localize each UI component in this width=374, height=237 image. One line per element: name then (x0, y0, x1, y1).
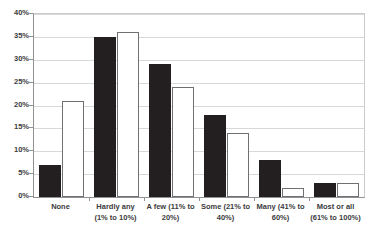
x-axis-label-line: 60%) (253, 213, 308, 224)
chart-title (33, 0, 363, 4)
bar[interactable] (227, 133, 249, 197)
x-axis-tick-mark (254, 197, 255, 201)
bar[interactable] (117, 32, 139, 197)
bars-layer (34, 14, 364, 197)
bar[interactable] (314, 183, 336, 197)
x-axis-tick-label: A few (11% to20%) (143, 202, 198, 223)
x-axis-tick-mark (144, 197, 145, 201)
bar[interactable] (149, 64, 171, 197)
bar[interactable] (337, 183, 359, 197)
bar[interactable] (259, 160, 281, 197)
x-axis-tick-label: Hardly any(1% to 10%) (88, 202, 143, 223)
y-axis-tick-label: 20% (0, 101, 29, 109)
y-axis-tick-label: 0% (0, 192, 29, 200)
bar-group (34, 14, 89, 197)
bar-group (309, 14, 364, 197)
x-axis-tick-mark (89, 197, 90, 201)
x-axis-label-line: (1% to 10%) (88, 213, 143, 224)
x-axis-label-line: Some (21% to (198, 202, 253, 213)
x-axis-tick-mark (199, 197, 200, 201)
y-axis-tick-label: 5% (0, 169, 29, 177)
x-axis-label-line: Hardly any (88, 202, 143, 213)
y-axis-tick-label: 40% (0, 9, 29, 17)
bar[interactable] (204, 115, 226, 197)
plot-area (33, 13, 365, 198)
x-axis-tick-label: None (33, 202, 88, 213)
x-axis-tick-label: Most or all(61% to 100%) (308, 202, 363, 223)
bar-group (89, 14, 144, 197)
x-axis-label-line: None (33, 202, 88, 213)
y-axis-tick-label: 30% (0, 55, 29, 63)
bar[interactable] (94, 37, 116, 197)
y-axis-tick-label: 25% (0, 78, 29, 86)
x-axis-label-line: (61% to 100%) (308, 213, 363, 224)
x-axis-tick-label: Many (41% to60%) (253, 202, 308, 223)
bar[interactable] (282, 188, 304, 197)
x-axis-label-line: Most or all (308, 202, 363, 213)
y-axis-tick-label: 10% (0, 146, 29, 154)
x-axis-label-line: A few (11% to (143, 202, 198, 213)
x-axis-label-line: Many (41% to (253, 202, 308, 213)
bar[interactable] (62, 101, 84, 197)
x-axis-tick-mark (309, 197, 310, 201)
bar[interactable] (172, 87, 194, 197)
x-axis-tick-label: Some (21% to40%) (198, 202, 253, 223)
x-axis-label-line: 40%) (198, 213, 253, 224)
bar-group (199, 14, 254, 197)
bar-group (144, 14, 199, 197)
y-axis-tick-label: 35% (0, 32, 29, 40)
bar-group (254, 14, 309, 197)
bar[interactable] (39, 165, 61, 197)
bar-chart: 40%35%30%25%20%15%10%5%0% NoneHardly any… (0, 0, 374, 237)
x-axis: NoneHardly any(1% to 10%)A few (11% to20… (33, 202, 363, 236)
x-axis-label-line: 20%) (143, 213, 198, 224)
y-axis-tick-label: 15% (0, 123, 29, 131)
